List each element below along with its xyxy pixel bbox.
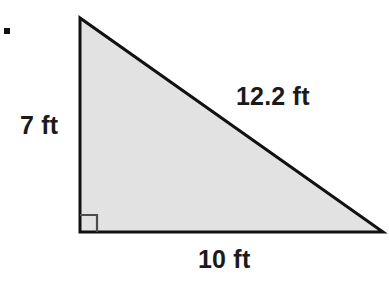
right-triangle-diagram [0,0,389,299]
side-label-vertical-leg: 7 ft [20,113,58,138]
figure-canvas: 7 ft 12.2 ft 10 ft [0,0,389,299]
triangle-shape [80,18,383,232]
side-label-hypotenuse: 12.2 ft [236,84,310,109]
side-label-horizontal-leg: 10 ft [198,247,250,272]
